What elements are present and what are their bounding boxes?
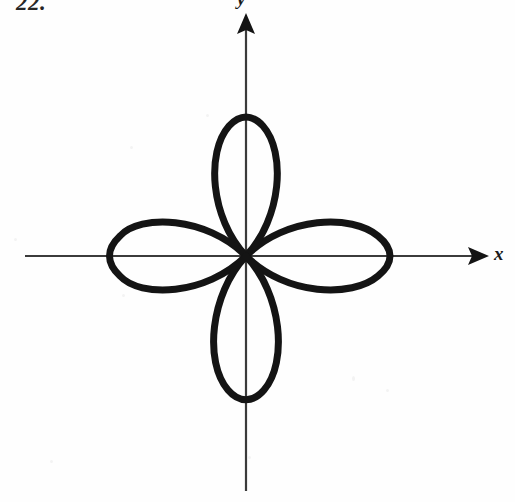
x-axis-label: x: [494, 244, 504, 263]
figure-canvas: 22. x y: [0, 0, 515, 502]
axes-group: [25, 13, 489, 491]
rose-curve-plot: [0, 0, 515, 502]
rose-curve-group: [110, 117, 391, 400]
y-axis-label: y: [237, 0, 245, 8]
